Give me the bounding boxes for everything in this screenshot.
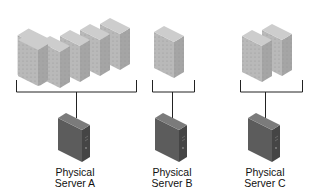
- bracket-c: [241, 80, 303, 92]
- vm-icon: [18, 34, 48, 86]
- server-label-b: Physical Server B: [137, 167, 207, 189]
- server-label-c: Physical Server C: [230, 167, 300, 189]
- server-label-a-line2: Server A: [40, 178, 110, 189]
- vm-icon: [242, 30, 272, 82]
- vm-stack-b: [154, 26, 184, 78]
- server-label-b-line2: Server B: [137, 178, 207, 189]
- vm-stack-a: [18, 18, 130, 88]
- bracket-b: [153, 80, 195, 92]
- virtualization-diagram: [0, 0, 315, 191]
- server-icon-a: [58, 113, 90, 162]
- server-icon-c: [248, 113, 280, 162]
- server-icon-b: [155, 113, 187, 162]
- server-label-c-line2: Server C: [230, 178, 300, 189]
- vm-stack-c: [242, 24, 292, 82]
- server-label-a: Physical Server A: [40, 167, 110, 189]
- vm-icon: [154, 26, 184, 78]
